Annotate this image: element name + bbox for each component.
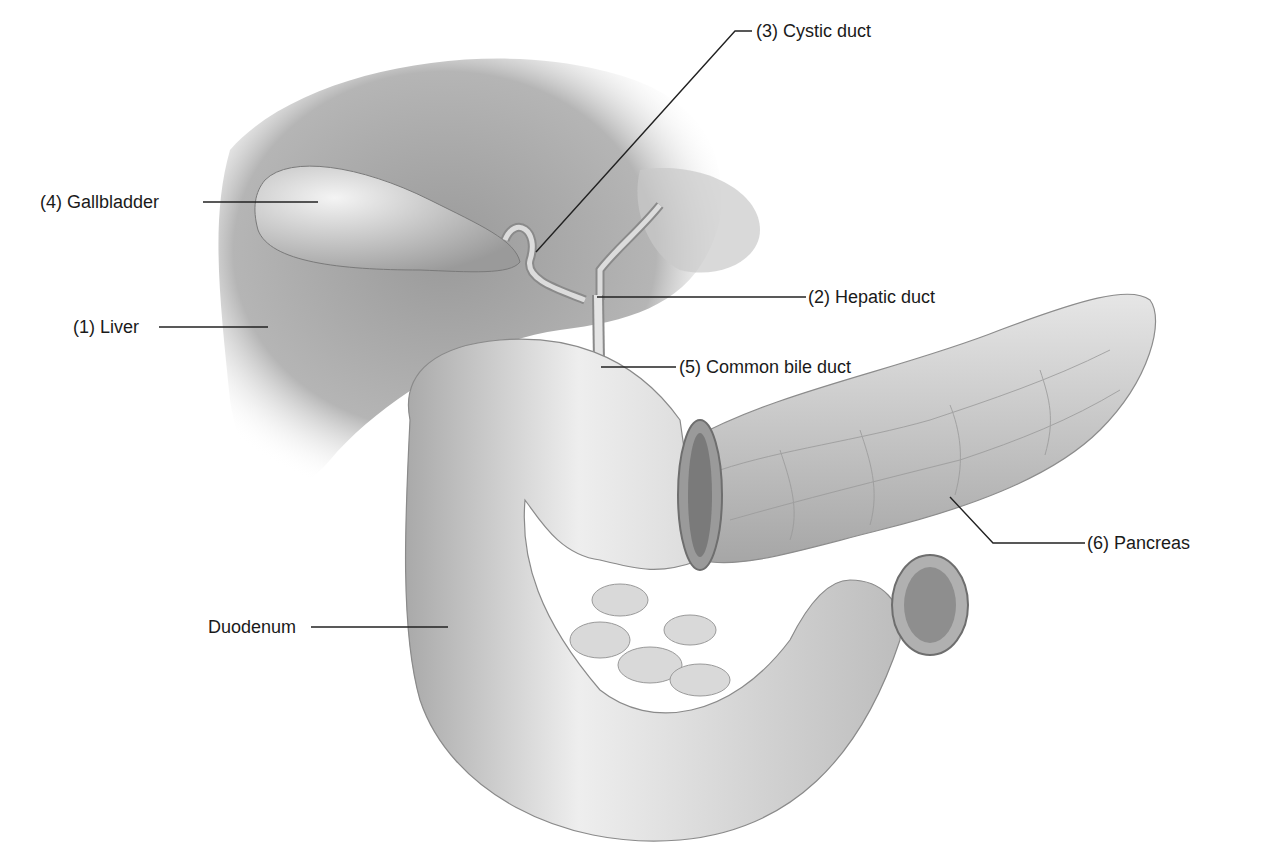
- label-gallbladder: (4) Gallbladder: [40, 192, 159, 212]
- label-liver: (1) Liver: [73, 317, 139, 337]
- pancreas-shape: [690, 294, 1156, 563]
- label-duodenum: Duodenum: [208, 617, 296, 637]
- label-hepatic-duct: (2) Hepatic duct: [808, 287, 935, 307]
- anatomy-diagram: (3) Cystic duct (4) Gallbladder (2) Hepa…: [0, 0, 1274, 866]
- illustration: [0, 0, 1274, 866]
- label-common-bile-duct: (5) Common bile duct: [679, 357, 851, 377]
- label-cystic-duct: (3) Cystic duct: [756, 21, 871, 41]
- label-pancreas: (6) Pancreas: [1087, 533, 1190, 553]
